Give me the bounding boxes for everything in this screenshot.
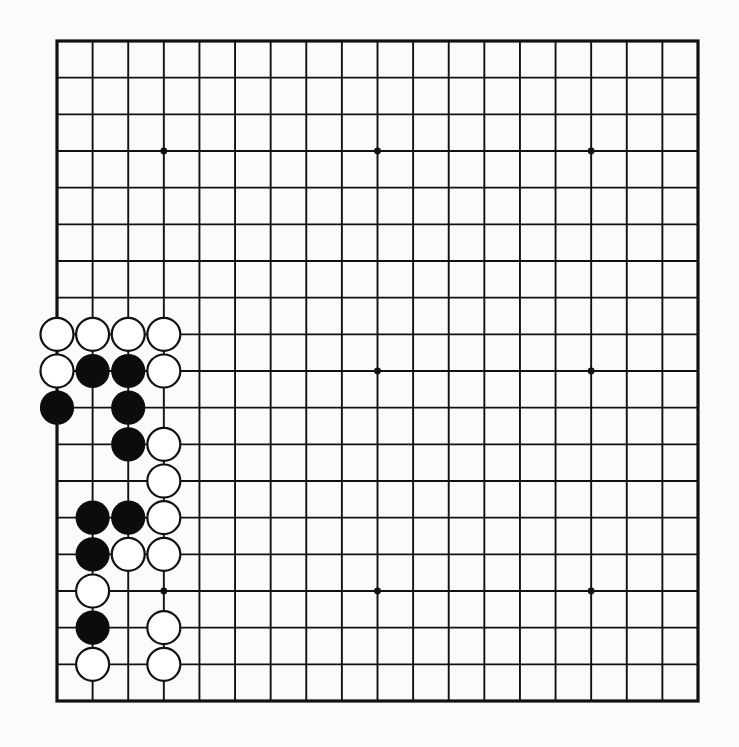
board-intersection[interactable] xyxy=(324,389,360,426)
board-intersection[interactable] xyxy=(467,169,503,206)
board-intersection[interactable] xyxy=(573,573,609,610)
board-intersection[interactable] xyxy=(645,573,681,610)
board-intersection[interactable] xyxy=(431,206,467,243)
board-intersection[interactable] xyxy=(75,169,111,206)
board-intersection[interactable] xyxy=(502,23,538,60)
board-intersection[interactable] xyxy=(253,499,289,536)
board-intersection[interactable] xyxy=(395,463,431,500)
board-intersection[interactable] xyxy=(538,463,574,500)
board-intersection[interactable] xyxy=(360,279,396,316)
board-intersection[interactable] xyxy=(609,59,645,96)
board-intersection[interactable] xyxy=(288,316,324,353)
board-intersection[interactable] xyxy=(360,573,396,610)
board-intersection[interactable] xyxy=(431,426,467,463)
board-intersection[interactable] xyxy=(75,23,111,60)
board-intersection[interactable] xyxy=(110,133,146,170)
board-intersection[interactable] xyxy=(395,316,431,353)
board-intersection[interactable] xyxy=(217,316,253,353)
board-intersection[interactable] xyxy=(360,23,396,60)
board-intersection[interactable] xyxy=(395,353,431,390)
board-intersection[interactable] xyxy=(645,279,681,316)
board-intersection[interactable] xyxy=(609,279,645,316)
board-intersection[interactable] xyxy=(680,609,716,646)
board-intersection[interactable] xyxy=(609,609,645,646)
board-intersection[interactable] xyxy=(680,499,716,536)
board-intersection[interactable] xyxy=(609,683,645,720)
board-intersection[interactable] xyxy=(573,23,609,60)
board-intersection[interactable] xyxy=(324,59,360,96)
board-intersection[interactable] xyxy=(645,133,681,170)
board-intersection[interactable] xyxy=(467,96,503,133)
board-intersection[interactable] xyxy=(645,683,681,720)
board-intersection[interactable] xyxy=(75,609,111,646)
board-intersection[interactable] xyxy=(502,243,538,280)
board-intersection[interactable] xyxy=(288,573,324,610)
board-intersection[interactable] xyxy=(502,59,538,96)
board-intersection[interactable] xyxy=(609,426,645,463)
board-intersection[interactable] xyxy=(39,389,75,426)
board-intersection[interactable] xyxy=(680,536,716,573)
board-intersection[interactable] xyxy=(146,96,182,133)
board-intersection[interactable] xyxy=(645,609,681,646)
board-intersection[interactable] xyxy=(217,279,253,316)
board-intersection[interactable] xyxy=(609,536,645,573)
board-intersection[interactable] xyxy=(538,353,574,390)
board-intersection[interactable] xyxy=(395,646,431,683)
board-intersection[interactable] xyxy=(467,59,503,96)
board-intersection[interactable] xyxy=(110,353,146,390)
board-intersection[interactable] xyxy=(146,279,182,316)
board-intersection[interactable] xyxy=(217,96,253,133)
board-intersection[interactable] xyxy=(395,243,431,280)
board-intersection[interactable] xyxy=(502,133,538,170)
board-intersection[interactable] xyxy=(502,316,538,353)
board-intersection[interactable] xyxy=(324,609,360,646)
board-intersection[interactable] xyxy=(182,279,218,316)
board-intersection[interactable] xyxy=(538,23,574,60)
board-intersection[interactable] xyxy=(288,133,324,170)
board-intersection[interactable] xyxy=(146,59,182,96)
board-intersection[interactable] xyxy=(645,426,681,463)
board-intersection[interactable] xyxy=(360,316,396,353)
board-intersection[interactable] xyxy=(467,573,503,610)
board-intersection[interactable] xyxy=(502,353,538,390)
board-intersection[interactable] xyxy=(146,169,182,206)
board-intersection[interactable] xyxy=(680,206,716,243)
board-intersection[interactable] xyxy=(182,463,218,500)
board-intersection[interactable] xyxy=(538,499,574,536)
board-intersection[interactable] xyxy=(253,279,289,316)
board-intersection[interactable] xyxy=(645,96,681,133)
board-intersection[interactable] xyxy=(431,389,467,426)
board-intersection[interactable] xyxy=(609,23,645,60)
board-intersection[interactable] xyxy=(146,683,182,720)
board-intersection[interactable] xyxy=(75,243,111,280)
board-intersection[interactable] xyxy=(288,206,324,243)
board-intersection[interactable] xyxy=(182,169,218,206)
board-intersection[interactable] xyxy=(431,646,467,683)
board-intersection[interactable] xyxy=(253,646,289,683)
board-intersection[interactable] xyxy=(360,609,396,646)
board-intersection[interactable] xyxy=(573,609,609,646)
board-intersection[interactable] xyxy=(182,133,218,170)
board-intersection[interactable] xyxy=(75,426,111,463)
board-intersection[interactable] xyxy=(217,646,253,683)
board-intersection[interactable] xyxy=(609,243,645,280)
board-intersection[interactable] xyxy=(110,23,146,60)
board-intersection[interactable] xyxy=(395,279,431,316)
board-intersection[interactable] xyxy=(431,683,467,720)
board-intersection[interactable] xyxy=(360,243,396,280)
board-intersection[interactable] xyxy=(75,573,111,610)
board-intersection[interactable] xyxy=(253,389,289,426)
board-intersection[interactable] xyxy=(217,206,253,243)
board-intersection[interactable] xyxy=(395,573,431,610)
board-intersection[interactable] xyxy=(467,23,503,60)
board-intersection[interactable] xyxy=(75,646,111,683)
board-intersection[interactable] xyxy=(538,536,574,573)
board-intersection[interactable] xyxy=(39,243,75,280)
board-intersection[interactable] xyxy=(467,243,503,280)
board-intersection[interactable] xyxy=(538,133,574,170)
board-intersection[interactable] xyxy=(609,389,645,426)
board-intersection[interactable] xyxy=(39,536,75,573)
board-intersection[interactable] xyxy=(146,499,182,536)
board-intersection[interactable] xyxy=(395,206,431,243)
board-intersection[interactable] xyxy=(502,96,538,133)
